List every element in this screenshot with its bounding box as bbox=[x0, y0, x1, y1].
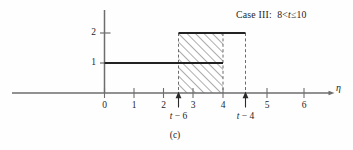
x-axis-arrow-tip bbox=[329, 91, 335, 96]
case-title-rhs: 10 bbox=[296, 9, 306, 20]
marker-op-t-6: − bbox=[175, 111, 180, 121]
x-axis bbox=[12, 88, 332, 98]
signal-traces bbox=[105, 33, 246, 63]
marker-num-t-4: 4 bbox=[250, 111, 255, 121]
arrow-marker-t-minus-6 bbox=[176, 92, 182, 108]
x-tick-label-0: 0 bbox=[95, 101, 115, 111]
figure-panel-c: Case III: 8<t≤10 2 1 0 1 2 3 4 5 6 η t −… bbox=[0, 0, 353, 150]
y-tick-label-2: 2 bbox=[78, 28, 96, 38]
y-tick-label-1: 1 bbox=[78, 58, 96, 68]
x-tick-label-2: 2 bbox=[154, 101, 174, 111]
marker-op-t-4: − bbox=[242, 111, 247, 121]
x-tick-label-1: 1 bbox=[124, 101, 144, 111]
x-tick-label-5: 5 bbox=[257, 101, 277, 111]
figure-caption: (c) bbox=[155, 131, 195, 141]
marker-label-t-minus-6: t − 6 bbox=[155, 112, 202, 122]
case-title: Case III: 8<t≤10 bbox=[236, 10, 307, 20]
arrow-marker-t-minus-4 bbox=[243, 92, 249, 108]
x-tick-label-3: 3 bbox=[183, 101, 203, 111]
marker-var-t-6: t bbox=[170, 111, 173, 121]
x-axis-name-eta: η bbox=[336, 83, 341, 93]
marker-var-t-4: t bbox=[237, 111, 240, 121]
y-axis bbox=[100, 10, 111, 93]
x-tick-label-6: 6 bbox=[294, 101, 314, 111]
plot-canvas bbox=[0, 0, 353, 150]
marker-label-t-minus-4: t − 4 bbox=[222, 112, 269, 122]
x-tick-label-4: 4 bbox=[213, 101, 233, 111]
case-title-prefix: Case III: bbox=[236, 9, 272, 20]
marker-num-t-6: 6 bbox=[183, 111, 188, 121]
